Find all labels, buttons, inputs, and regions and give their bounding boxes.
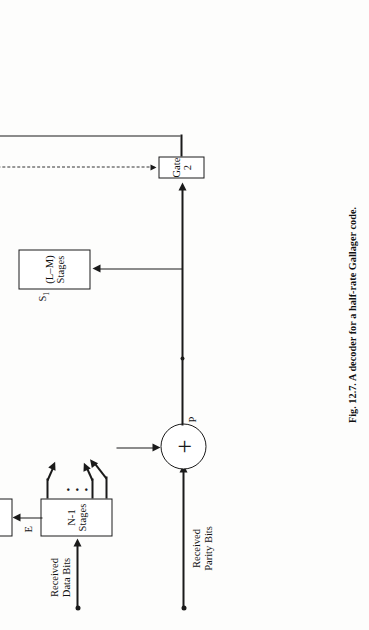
arrow-p-to-gate2 — [178, 182, 186, 190]
block-gate-2: Gate 2 — [158, 156, 204, 178]
tap-e-3b — [94, 463, 107, 478]
arrow-p-to-s1 — [92, 264, 100, 272]
label-received-data-bits: Received Data Bits — [48, 539, 72, 615]
ellipsis-e-taps: ••• — [62, 487, 89, 491]
figure-caption: Fig. 12.7. A decoder for a half-rate Gal… — [339, 0, 365, 630]
block-e-register: N-1 Stages — [40, 498, 112, 536]
junction-p-s1 — [180, 356, 184, 360]
block-diagram: Received Data Bits Received Parity Bits … — [0, 0, 369, 630]
wire-trunk-to-adder — [116, 447, 156, 448]
adder-parity-check: + — [160, 423, 206, 469]
adder-parity-symbol: + — [161, 424, 205, 468]
arrow-detector-to-gate2 — [150, 164, 156, 170]
block-gate-2-label: Gate 2 — [159, 157, 203, 177]
block-d1-register: (L–M) Stages — [0, 498, 12, 536]
arrow-e-to-d1 — [12, 513, 20, 521]
wire-gate2-right — [180, 134, 182, 156]
figure-caption-text: Fig. 12.7. A decoder for a half-rate Gal… — [347, 207, 358, 423]
label-received-parity-bits: Received Parity Bits — [190, 510, 214, 586]
wire-p-out — [181, 188, 183, 425]
arrow-trunk-to-adder — [152, 443, 160, 451]
wire-p-to-s1 — [96, 268, 182, 269]
block-s1-register-label: (L–M) Stages — [19, 250, 89, 288]
figure-page: Received Data Bits Received Parity Bits … — [0, 0, 369, 630]
arrow-tap-e-1 — [48, 460, 59, 471]
wire-detector-to-gate2 — [0, 166, 154, 167]
tag-s1: S1 — [36, 291, 50, 301]
wire-received-data — [76, 544, 78, 608]
block-d1-register-label: (L–M) Stages — [0, 499, 11, 535]
label-node-p: P — [186, 416, 198, 422]
tag-e: E — [22, 526, 34, 532]
arrow-received-data — [73, 538, 81, 546]
wire-gate2-up — [0, 135, 180, 136]
block-s1-register: (L–M) Stages — [18, 249, 90, 289]
wire-received-parity — [182, 470, 184, 608]
block-e-register-label: N-1 Stages — [41, 499, 111, 535]
